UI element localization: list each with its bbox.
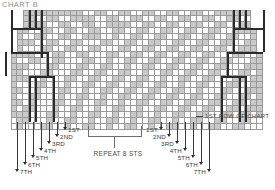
heavy-outline-segment	[35, 76, 37, 122]
row-pointer-arrow-icon	[167, 134, 171, 137]
row-pointer-stem	[49, 122, 50, 141]
heavy-outline-segment	[11, 28, 41, 30]
row-pointer-stem	[193, 122, 194, 155]
heavy-outline-segment	[239, 10, 241, 28]
row-pointer-arrow-icon	[199, 162, 203, 165]
row-label-right-3: 3RD	[152, 140, 174, 147]
row-pointer-arrow-icon	[55, 134, 59, 137]
repeat-bracket-stem	[114, 137, 115, 148]
row-label-left-7: 7TH	[20, 168, 32, 175]
row-pointer-stem	[185, 122, 186, 148]
row-pointer-arrow-icon	[159, 127, 163, 130]
heavy-outline-segment	[29, 76, 53, 78]
heavy-outline-segment	[11, 28, 13, 52]
heavy-outline-segment	[221, 76, 245, 78]
row-pointer-stem	[25, 122, 26, 162]
row-pointer-stem	[169, 122, 170, 134]
row-label-left-3: 3RD	[52, 140, 65, 147]
heavy-outline-segment	[29, 76, 31, 122]
row-label-right-5: 5TH	[168, 154, 190, 161]
row-label-right-6: 6TH	[176, 161, 198, 168]
first-row-callout: 1ST ROW OF CHART	[196, 113, 269, 119]
heavy-outline-segment	[233, 28, 263, 30]
row-pointer-arrow-icon	[175, 141, 179, 144]
callout-dash-icon	[196, 116, 203, 117]
repeat-bracket	[88, 126, 142, 137]
row-pointer-stem	[57, 122, 58, 134]
row-label-left-1: 1ST	[68, 126, 80, 133]
row-pointer-stem	[17, 122, 18, 169]
heavy-outline-segment	[5, 52, 7, 76]
heavy-outline-segment	[227, 52, 263, 54]
heavy-outline-segment	[233, 28, 235, 52]
heavy-outline-segment	[41, 28, 43, 52]
row-label-left-5: 5TH	[36, 154, 48, 161]
row-pointer-stem	[41, 122, 42, 148]
row-pointer-arrow-icon	[207, 169, 211, 172]
row-label-left-4: 4TH	[44, 147, 56, 154]
heavy-outline-segment	[41, 10, 43, 28]
row-pointer-arrow-icon	[63, 127, 67, 130]
row-pointer-stem	[209, 122, 210, 169]
heavy-outline-segment	[47, 52, 49, 76]
row-pointer-arrow-icon	[191, 155, 195, 158]
chart-stage: CHART B 1ST2ND3RD4TH5TH6TH7TH1ST2ND3RD4T…	[0, 0, 275, 190]
heavy-outline-segment	[263, 10, 265, 28]
row-pointer-stem	[201, 122, 202, 162]
heavy-outline-segment	[245, 10, 247, 28]
row-pointer-arrow-icon	[39, 148, 43, 151]
row-pointer-arrow-icon	[47, 141, 51, 144]
row-pointer-arrow-icon	[23, 162, 27, 165]
row-label-right-7: 7TH	[184, 168, 206, 175]
heavy-outline-segment	[263, 28, 265, 52]
first-row-callout-label: 1ST ROW OF CHART	[205, 113, 269, 119]
heavy-outline-segment	[11, 10, 13, 28]
heavy-outline-segment	[35, 10, 37, 28]
heavy-outline-segment	[41, 52, 43, 58]
row-pointer-arrow-icon	[31, 155, 35, 158]
heavy-outline-segment	[29, 10, 31, 28]
row-label-left-6: 6TH	[28, 161, 40, 168]
heavy-outline-segment	[233, 10, 235, 28]
repeat-label: REPEAT 8 STS	[78, 150, 158, 157]
row-pointer-arrow-icon	[15, 169, 19, 172]
row-label-right-4: 4TH	[160, 147, 182, 154]
row-label-left-2: 2ND	[60, 133, 73, 140]
heavy-outline-segment	[53, 76, 55, 122]
row-pointer-stem	[33, 122, 34, 155]
heavy-outline-segment	[227, 52, 229, 76]
stitch-cell	[257, 124, 263, 130]
row-pointer-stem	[177, 122, 178, 141]
row-label-right-2: 2ND	[144, 133, 166, 140]
row-pointer-arrow-icon	[183, 148, 187, 151]
